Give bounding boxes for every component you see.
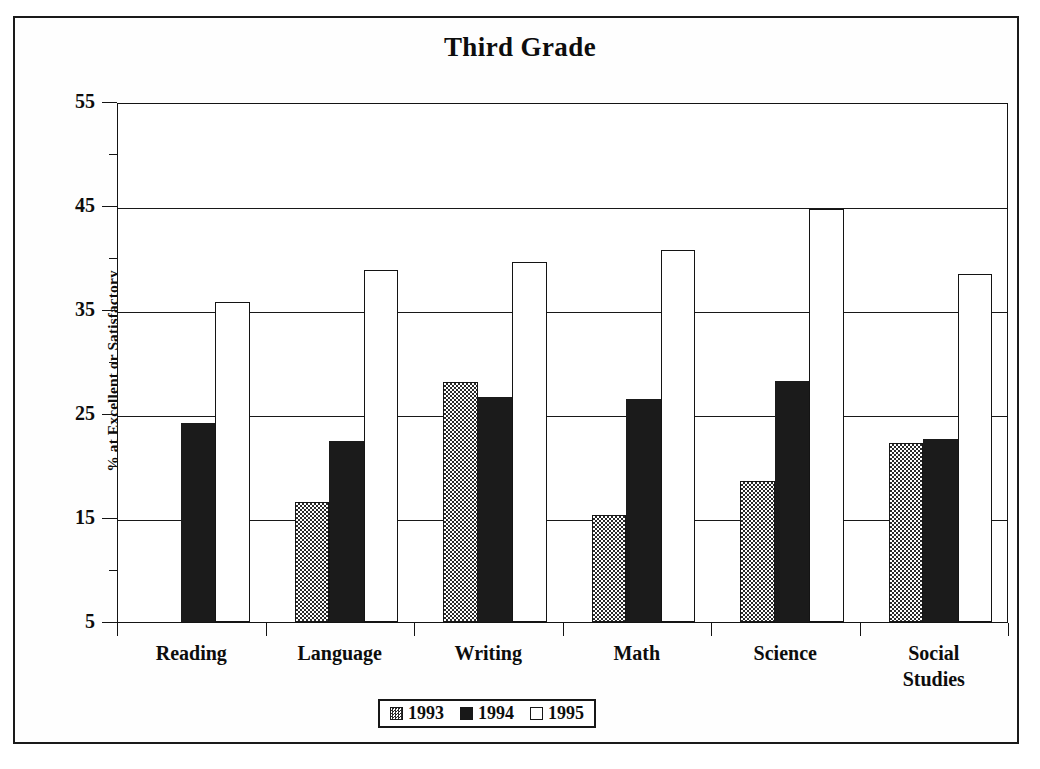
x-axis-label-writing: Writing — [414, 640, 563, 666]
bar-social-studies-1993 — [889, 443, 924, 622]
bar-language-1993 — [295, 502, 330, 622]
bar-writing-1993 — [443, 382, 478, 622]
x-axis-label-social-studies: SocialStudies — [860, 640, 1009, 693]
solid-black-swatch — [460, 707, 473, 720]
y-axis-tick-label: 35 — [75, 298, 95, 321]
gridline — [118, 416, 1007, 417]
y-axis-tick-label: 55 — [75, 90, 95, 113]
legend-item-1995: 1995 — [530, 703, 584, 724]
y-axis-tick-label: 5 — [85, 610, 95, 633]
white-outline-swatch — [530, 707, 543, 720]
y-axis: 51525354555 — [0, 103, 117, 623]
y-axis-tick-label: 45 — [75, 194, 95, 217]
x-axis-label-language: Language — [266, 640, 415, 666]
x-axis-label-math: Math — [563, 640, 712, 666]
bar-reading-1994 — [181, 423, 216, 622]
bar-math-1995 — [661, 250, 696, 622]
x-axis-label-reading: Reading — [117, 640, 266, 666]
y-axis-tick-label: 15 — [75, 506, 95, 529]
bar-language-1994 — [329, 441, 364, 622]
bar-writing-1995 — [512, 262, 547, 622]
y-minor-tick-mark — [109, 570, 117, 571]
x-axis-category-separator — [563, 623, 564, 636]
y-minor-tick-mark — [109, 466, 117, 467]
y-minor-tick-mark — [109, 258, 117, 259]
gridline — [118, 208, 1007, 209]
x-axis-label-science: Science — [711, 640, 860, 666]
legend-label: 1994 — [478, 703, 514, 724]
x-axis-category-separator — [266, 623, 267, 636]
gridline — [118, 520, 1007, 521]
bar-social-studies-1994 — [923, 439, 958, 622]
legend-item-1993: 1993 — [390, 703, 444, 724]
y-tick-mark — [102, 310, 117, 311]
y-tick-mark — [102, 518, 117, 519]
y-tick-mark — [102, 414, 117, 415]
legend-label: 1995 — [548, 703, 584, 724]
checkered-gray-swatch — [390, 707, 403, 720]
y-tick-mark — [102, 102, 117, 103]
bar-science-1995 — [809, 209, 844, 622]
bar-writing-1994 — [478, 397, 513, 622]
y-minor-tick-mark — [109, 154, 117, 155]
y-tick-mark — [102, 622, 117, 623]
legend-item-1994: 1994 — [460, 703, 514, 724]
bar-reading-1995 — [215, 302, 250, 622]
bar-social-studies-1995 — [958, 274, 993, 622]
y-minor-tick-mark — [109, 362, 117, 363]
bar-math-1994 — [626, 399, 661, 622]
chart-title: Third Grade — [0, 32, 1040, 63]
x-axis-category-separator — [711, 623, 712, 636]
y-tick-mark — [102, 206, 117, 207]
bar-science-1993 — [740, 481, 775, 622]
y-axis-tick-label: 25 — [75, 402, 95, 425]
chart-legend: 199319941995 — [378, 699, 596, 728]
gridline — [118, 312, 1007, 313]
x-axis-category-separator — [414, 623, 415, 636]
legend-label: 1993 — [408, 703, 444, 724]
x-axis-category-separator — [860, 623, 861, 636]
x-axis-end-tick — [1008, 623, 1009, 636]
bar-math-1993 — [592, 515, 627, 622]
x-axis-end-tick — [117, 623, 118, 636]
bar-language-1995 — [364, 270, 399, 622]
plot-area — [117, 103, 1008, 623]
bar-science-1994 — [775, 381, 810, 622]
